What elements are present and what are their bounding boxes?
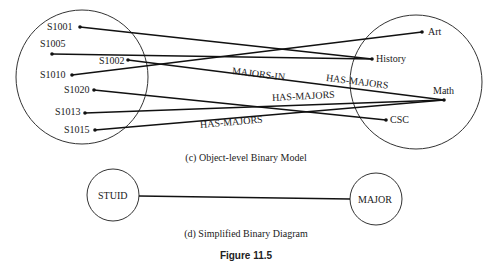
stuid-major-link [139,196,350,199]
dot-s1001 [78,25,82,29]
major-label-math: Math [433,86,454,96]
figure-label: Figure 11.5 [0,250,492,261]
student-label-s1015: S1015 [64,125,90,135]
student-label-s1001: S1001 [47,22,73,32]
major-node-label: MAJOR [358,194,392,205]
major-label-csc: CSC [390,115,409,125]
student-label-s1020: S1020 [64,85,90,95]
simplified-diagram-caption: (d) Simplified Binary Diagram [0,228,492,239]
dot-csc [384,118,388,122]
student-label-s1013: S1013 [55,107,81,117]
dot-math [442,98,446,102]
student-label-s1005: S1005 [40,39,66,49]
dot-s1010 [70,73,74,77]
stuid-node-label: STUID [98,190,127,201]
dot-s1015 [93,128,97,132]
link-s1013-math [85,100,444,113]
major-label-history: History [376,54,406,64]
dot-s1005 [50,52,54,56]
object-level-caption: (c) Object-level Binary Model [0,152,492,163]
dot-art [420,30,424,34]
dot-s1013 [83,111,87,115]
student-label-s1002: S1002 [99,56,125,66]
dot-s1002 [126,58,130,62]
dot-s1020 [92,88,96,92]
major-label-art: Art [428,27,441,37]
dot-history [370,57,374,61]
student-label-s1010: S1010 [40,70,66,80]
